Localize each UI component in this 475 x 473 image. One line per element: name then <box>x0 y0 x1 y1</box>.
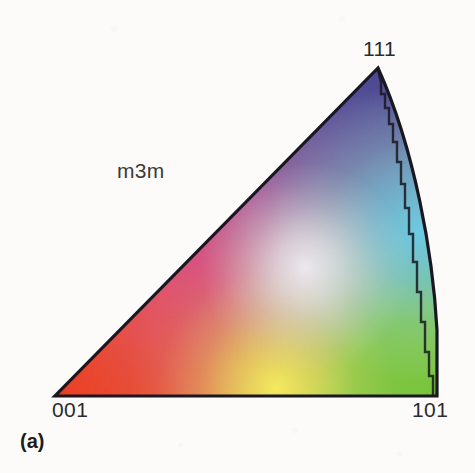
pole-label-111: 111 <box>363 38 396 59</box>
pole-label-101: 101 <box>412 399 448 420</box>
symmetry-group-label: m3m <box>117 160 165 181</box>
ipf-figure-panel: 111 001 101 m3m (a) <box>0 0 475 473</box>
pole-label-001: 001 <box>52 399 88 420</box>
panel-letter-label: (a) <box>20 431 44 451</box>
